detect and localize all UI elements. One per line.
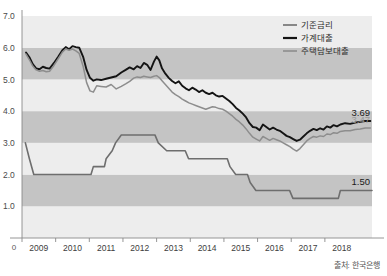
interest-rate-chart: 01.02.03.04.05.06.07.0 20092010201120122… [0, 0, 387, 276]
y-tick-label: 4.0 [3, 106, 15, 116]
y-tick-label: 3.0 [3, 138, 15, 148]
x-tick-label: 2018 [332, 243, 351, 253]
source-note: 출처: 한국은행 [334, 260, 380, 270]
x-tick-label-layer: 2009201020112012201320142015201620172018 [29, 243, 351, 253]
y-band [22, 111, 372, 143]
legend-label: 주택담보대출 [301, 46, 349, 56]
legend-label: 기준금리 [301, 20, 333, 30]
y-tick-label: 7.0 [3, 11, 15, 21]
y-tick-label: 1.0 [3, 201, 15, 211]
x-tick-label: 2011 [97, 243, 116, 253]
y-tick-label: 2.0 [3, 170, 15, 180]
legend-label: 가계대출 [301, 33, 333, 43]
value-annotation: 3.47 [352, 114, 371, 125]
x-tick-label: 2014 [198, 243, 217, 253]
y-tick-label: 5.0 [3, 75, 15, 85]
y-band [22, 175, 372, 207]
x-tick-label: 2016 [265, 243, 284, 253]
y-band [22, 206, 372, 238]
x-tick-label: 2013 [164, 243, 183, 253]
y-tick-label: 6.0 [3, 43, 15, 53]
x-tick-label: 2009 [29, 243, 48, 253]
origin-label: 0 [12, 243, 17, 252]
x-tick-label: 2015 [231, 243, 250, 253]
x-tick-label: 2010 [63, 243, 82, 253]
value-annotation: 1.50 [352, 176, 371, 187]
y-tick-label-layer: 01.02.03.04.05.06.07.0 [3, 11, 17, 252]
source-layer: 출처: 한국은행 [334, 260, 380, 270]
chart-canvas: 01.02.03.04.05.06.07.0 20092010201120122… [0, 0, 387, 276]
x-tick-label: 2017 [299, 243, 318, 253]
x-tick-label: 2012 [130, 243, 149, 253]
